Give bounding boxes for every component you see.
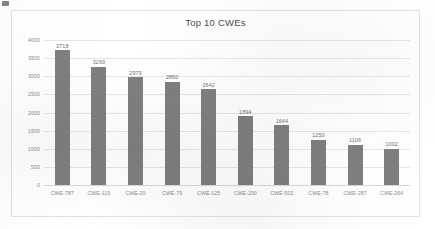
chart-frame: Top 10 CWEs 0500100015002000250030003500… bbox=[11, 10, 420, 217]
gridline bbox=[44, 185, 410, 186]
bar[interactable]: 3718 bbox=[55, 50, 70, 185]
bar-data-label: 3269 bbox=[93, 59, 105, 65]
y-axis-tick-label: 4000 bbox=[28, 37, 40, 43]
bar-data-label: 1002 bbox=[385, 141, 397, 147]
bar[interactable]: 1106 bbox=[348, 145, 363, 185]
bar[interactable]: 1002 bbox=[384, 149, 399, 185]
x-axis-tick-label: CWE-78 bbox=[308, 190, 328, 196]
chart-title: Top 10 CWEs bbox=[12, 17, 419, 28]
bar-data-label: 1250 bbox=[312, 132, 324, 138]
x-axis-tick-label: CWE-20 bbox=[125, 190, 145, 196]
y-axis-tick-label: 2500 bbox=[28, 91, 40, 97]
y-axis-tick-label: 3000 bbox=[28, 73, 40, 79]
bar-slot: 1250CWE-78 bbox=[300, 40, 337, 185]
x-axis-tick-label: CWE-787 bbox=[51, 190, 74, 196]
scan-corner-mark bbox=[2, 1, 9, 6]
x-axis-tick-label: CWE-79 bbox=[162, 190, 182, 196]
bar-slot: 1106CWE-287 bbox=[337, 40, 374, 185]
bar-slot: 3718CWE-787 bbox=[44, 40, 81, 185]
bar-data-label: 1894 bbox=[239, 109, 251, 115]
bar[interactable]: 1894 bbox=[238, 116, 253, 185]
y-axis-tick-label: 500 bbox=[31, 164, 40, 170]
bar-slot: 2850CWE-79 bbox=[154, 40, 191, 185]
x-axis-tick-label: CWE-200 bbox=[234, 190, 257, 196]
y-axis-tick-label: 1500 bbox=[28, 128, 40, 134]
y-axis-tick-label: 3500 bbox=[28, 55, 40, 61]
x-axis-tick-label: CWE-287 bbox=[343, 190, 366, 196]
y-axis-tick-label: 0 bbox=[37, 182, 40, 188]
bar-data-label: 3718 bbox=[56, 43, 68, 49]
bar-data-label: 1644 bbox=[276, 118, 288, 124]
y-axis-tick-label: 1000 bbox=[28, 146, 40, 152]
bar-slot: 3269CWE-119 bbox=[81, 40, 118, 185]
bar-data-label: 1106 bbox=[349, 137, 361, 143]
bar[interactable]: 2642 bbox=[201, 89, 216, 185]
bar-slot: 1002CWE-264 bbox=[373, 40, 410, 185]
x-axis-tick-label: CWE-502 bbox=[270, 190, 293, 196]
bar-data-label: 2979 bbox=[129, 70, 141, 76]
bar-slot: 2979CWE-20 bbox=[117, 40, 154, 185]
bar-data-label: 2642 bbox=[202, 82, 214, 88]
bar[interactable]: 2979 bbox=[128, 77, 143, 185]
x-axis-tick-label: CWE-125 bbox=[197, 190, 220, 196]
bar[interactable]: 1644 bbox=[274, 125, 289, 185]
bar-slot: 1644CWE-502 bbox=[264, 40, 301, 185]
bar[interactable]: 3269 bbox=[91, 67, 106, 186]
y-axis-tick-label: 2000 bbox=[28, 110, 40, 116]
x-axis-tick-label: CWE-264 bbox=[380, 190, 403, 196]
bar[interactable]: 2850 bbox=[165, 82, 180, 185]
x-axis-tick-label: CWE-119 bbox=[87, 190, 110, 196]
plot-area: 05001000150020002500300035004000 3718CWE… bbox=[44, 40, 410, 185]
bar-data-label: 2850 bbox=[166, 74, 178, 80]
bar-slot: 1894CWE-200 bbox=[227, 40, 264, 185]
bar-series: 3718CWE-7873269CWE-1192979CWE-202850CWE-… bbox=[44, 40, 410, 185]
bar-slot: 2642CWE-125 bbox=[190, 40, 227, 185]
bar[interactable]: 1250 bbox=[311, 140, 326, 185]
